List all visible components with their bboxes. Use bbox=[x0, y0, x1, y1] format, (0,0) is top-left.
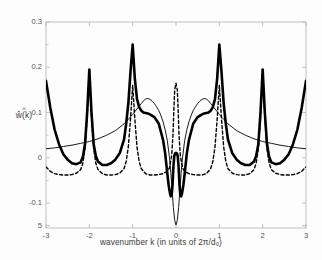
figure-container: ^ŵ(k) wavenumber k (in units of 2π/d₀) 0… bbox=[0, 0, 322, 260]
x-tick-label: 1 bbox=[207, 231, 231, 240]
y-tick-label: 0 bbox=[12, 153, 42, 162]
x-tick-label: 0 bbox=[164, 231, 188, 240]
x-tick-label: 2 bbox=[251, 231, 275, 240]
y-tick-label: 5 bbox=[12, 221, 42, 230]
y-tick-label: 0.2 bbox=[12, 62, 42, 71]
y-tick-label: 0.3 bbox=[12, 17, 42, 26]
axes-layer bbox=[46, 22, 306, 228]
series-thin-solid bbox=[46, 99, 306, 225]
x-tick-label: -3 bbox=[34, 231, 58, 240]
y-tick-label: 0.1 bbox=[12, 108, 42, 117]
x-tick-label: 3 bbox=[294, 231, 318, 240]
chart-plot-area bbox=[0, 0, 322, 260]
x-tick-label: -2 bbox=[77, 231, 101, 240]
series-thick-solid bbox=[46, 45, 306, 197]
axis-frame bbox=[46, 22, 306, 228]
x-axis-label-text: wavenumber k (in units of 2π/d₀) bbox=[100, 238, 222, 247]
y-tick-label: -0.1 bbox=[12, 198, 42, 207]
x-tick-label: -1 bbox=[121, 231, 145, 240]
curves-layer bbox=[46, 45, 306, 225]
series-dashed bbox=[46, 70, 306, 175]
